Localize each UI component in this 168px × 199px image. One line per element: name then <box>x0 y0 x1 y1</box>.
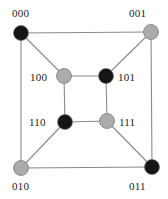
node-label-111: 111 <box>119 117 135 128</box>
node-label-110: 110 <box>29 117 46 128</box>
graph-canvas <box>0 0 168 199</box>
edge-001-101 <box>106 32 151 76</box>
node-000[interactable] <box>14 26 29 41</box>
node-001[interactable] <box>144 25 159 40</box>
edge-000-001 <box>21 32 151 33</box>
edge-011-010 <box>21 167 152 168</box>
hypercube-diagram: 000001010011100101110111 <box>0 0 168 199</box>
node-011[interactable] <box>145 160 160 175</box>
node-111[interactable] <box>100 114 115 129</box>
edge-001-011 <box>151 32 152 167</box>
node-label-001: 001 <box>129 8 146 19</box>
node-label-101: 101 <box>118 72 135 83</box>
node-010[interactable] <box>14 161 29 176</box>
node-101[interactable] <box>99 69 114 84</box>
edge-010-110 <box>21 122 65 168</box>
node-label-011: 011 <box>129 181 146 192</box>
edges-group <box>21 32 152 168</box>
node-100[interactable] <box>57 69 72 84</box>
node-label-000: 000 <box>12 8 29 19</box>
node-label-010: 010 <box>12 181 29 192</box>
node-label-100: 100 <box>30 72 47 83</box>
node-110[interactable] <box>58 115 73 130</box>
edge-000-100 <box>21 33 64 76</box>
